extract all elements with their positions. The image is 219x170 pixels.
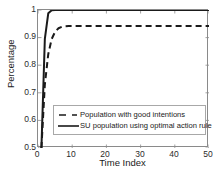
y-tick-label: 0.6 [4,115,36,124]
chart-legend: Population with good intentions SU popul… [53,105,206,135]
legend-item: SU population using optimal action rule [56,120,202,131]
solid-line-icon [56,121,80,131]
y-axis-label: Percentage [6,24,16,104]
y-tick-label: 1 [4,5,36,14]
dashed-line-icon [56,110,80,120]
chart-figure: 1 0.9 0.8 0.7 0.6 0.5 0 10 20 30 40 50 T… [0,0,219,170]
legend-item-label: Population with good intentions [80,111,185,119]
legend-item-label: SU population using optimal action rule [80,122,212,130]
x-axis-label: Time Index [37,158,208,168]
legend-item: Population with good intentions [56,109,202,120]
